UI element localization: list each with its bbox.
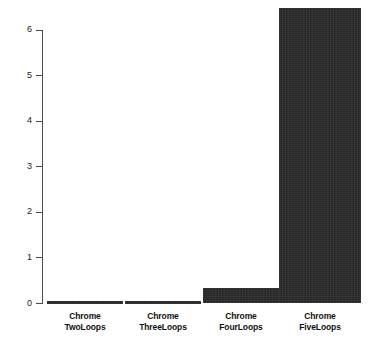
y-tick-label-wrap: 1 xyxy=(8,253,32,263)
y-tick-mark xyxy=(36,166,42,167)
y-tick-label: 4 xyxy=(8,116,32,125)
y-tick-mark xyxy=(36,212,42,213)
y-tick-label-wrap: 6 xyxy=(8,25,32,35)
y-tick-label: 5 xyxy=(8,71,32,80)
plot-area: 0123456 ChromeTwoLoopsChromeThreeLoopsCh… xyxy=(0,0,372,344)
y-tick-mark xyxy=(36,257,42,258)
y-tick-label-wrap: 5 xyxy=(8,71,32,81)
y-tick-label-wrap: 0 xyxy=(8,299,32,309)
bar xyxy=(47,301,123,304)
bar-chart: 0123456 ChromeTwoLoopsChromeThreeLoopsCh… xyxy=(0,0,372,344)
y-tick-mark xyxy=(36,30,42,31)
bar xyxy=(279,8,361,303)
bar xyxy=(203,288,279,304)
x-axis-label-line1: Chrome xyxy=(265,311,372,322)
y-tick-label-wrap: 4 xyxy=(8,116,32,126)
y-axis-line xyxy=(42,30,43,304)
y-tick-label: 1 xyxy=(8,253,32,262)
y-tick-label: 2 xyxy=(8,207,32,216)
x-axis-label-line2: FiveLoops xyxy=(265,322,372,333)
x-axis-label: ChromeFiveLoops xyxy=(265,311,372,333)
y-tick-mark xyxy=(36,121,42,122)
y-tick-mark xyxy=(36,303,42,304)
y-tick-label-wrap: 2 xyxy=(8,207,32,217)
bar xyxy=(125,301,201,304)
y-tick-label-wrap: 3 xyxy=(8,162,32,172)
y-tick-label: 6 xyxy=(8,25,32,34)
y-tick-label: 0 xyxy=(8,299,32,308)
y-tick-mark xyxy=(36,75,42,76)
y-tick-label: 3 xyxy=(8,162,32,171)
